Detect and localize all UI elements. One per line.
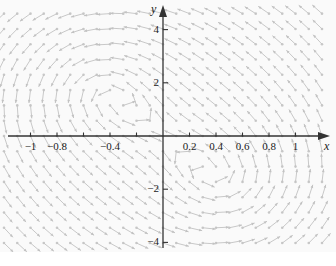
x-axis-label: x — [324, 139, 329, 154]
x-tick-label: −0.4 — [90, 140, 130, 152]
x-tick-label: 1 — [276, 140, 316, 152]
axes-layer — [0, 0, 336, 252]
y-tick-label: 2 — [121, 76, 159, 88]
direction-field-figure: −1−0.8−0.40.20.40.60.8142−2−4 x y — [0, 0, 336, 266]
y-tick-label: −4 — [121, 235, 159, 247]
y-axis-label: y — [151, 2, 156, 17]
y-tick-label: −2 — [121, 182, 159, 194]
y-axis-arrowhead — [159, 5, 167, 17]
x-tick-label: −0.8 — [37, 140, 77, 152]
y-tick-label: 4 — [121, 23, 159, 35]
plot-surface — [0, 0, 336, 252]
